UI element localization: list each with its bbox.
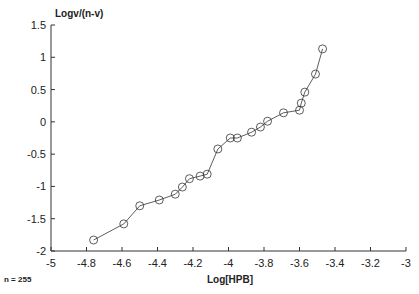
data-point — [90, 236, 98, 244]
y-tick-label: -1 — [36, 180, 46, 192]
x-tick-label: -3.6 — [290, 257, 309, 269]
chart: -5-4.8-4.6-4.4-4.2-4-3.8-3.6-3.4-3.2-3 -… — [0, 0, 419, 294]
series-data — [90, 45, 327, 244]
y-tick-label: -1.5 — [27, 213, 46, 225]
y-tick-label: -0.5 — [27, 148, 46, 160]
x-ticks: -5-4.8-4.6-4.4-4.2-4-3.8-3.6-3.4-3.2-3 — [46, 247, 411, 269]
x-tick-label: -3.2 — [361, 257, 380, 269]
x-axis-title: Log[HPB] — [207, 274, 253, 285]
x-tick-label: -3.8 — [255, 257, 274, 269]
y-axis-title: Logv/(n-v) — [55, 8, 103, 19]
y-tick-label: 1.5 — [31, 19, 46, 31]
y-tick-label: 1 — [40, 51, 46, 63]
x-tick-label: -4.4 — [148, 257, 167, 269]
y-tick-label: 0 — [40, 116, 46, 128]
y-tick-label: -2 — [36, 245, 46, 257]
x-tick-label: -4.8 — [77, 257, 96, 269]
x-tick-label: -5 — [46, 257, 56, 269]
data-point — [319, 45, 327, 53]
axes — [51, 25, 406, 251]
x-tick-label: -3 — [401, 257, 411, 269]
x-tick-label: -4.2 — [184, 257, 203, 269]
x-tick-label: -4 — [224, 257, 234, 269]
y-tick-label: 0.5 — [31, 84, 46, 96]
x-tick-label: -3.4 — [326, 257, 345, 269]
x-tick-label: -4.6 — [113, 257, 132, 269]
series-line — [94, 49, 323, 240]
sample-size-annotation: n = 255 — [4, 275, 32, 284]
